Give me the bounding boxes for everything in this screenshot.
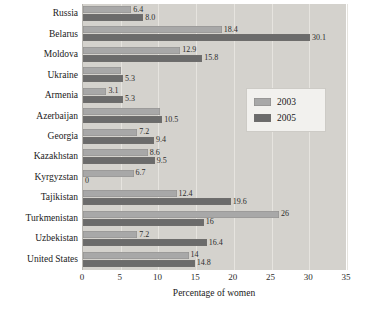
bar-value-label: 16	[206, 218, 214, 226]
bar-2005-belarus	[83, 34, 310, 41]
bar-2003-kyrgyzstan	[83, 170, 134, 177]
bar-2005-kazakhstan	[83, 157, 155, 164]
bar-value-label: 14.8	[197, 259, 211, 267]
bar-value-label: 12.9	[182, 46, 196, 54]
category-axis-labels: RussiaBelarusMoldovaUkraineArmeniaAzerba…	[0, 4, 78, 270]
legend-item-2003: 2003	[254, 94, 325, 110]
bar-value-label: 5.3	[125, 95, 135, 103]
bar-value-label: 6.7	[136, 169, 146, 177]
bar-2005-turkmenistan	[83, 219, 204, 226]
bar-2003-belarus	[83, 26, 222, 33]
bar-2005-azerbaijan	[83, 116, 162, 123]
chart-figure: 6.48.018.430.112.915.85.33.15.310.57.29.…	[0, 0, 366, 320]
x-tick-25: 25	[266, 272, 275, 282]
bar-2003-turkmenistan	[83, 211, 279, 218]
bar-2005-ukraine	[83, 75, 123, 82]
bar-2003-uzbekistan	[83, 231, 137, 238]
bar-row: 2616	[83, 211, 346, 231]
chart-legend: 2003 2005	[246, 88, 326, 132]
legend-swatch-2003-icon	[254, 98, 271, 106]
x-axis-label: Percentage of women	[82, 288, 346, 298]
legend-label-2005: 2005	[277, 113, 296, 123]
bar-value-label: 9.5	[157, 157, 167, 165]
legend-label-2003: 2003	[277, 97, 296, 107]
legend-item-2005: 2005	[254, 110, 325, 126]
category-label-russia: Russia	[0, 8, 78, 18]
category-label-armenia: Armenia	[0, 90, 78, 100]
bar-value-label: 6.4	[133, 6, 143, 14]
plot-area: 6.48.018.430.112.915.85.33.15.310.57.29.…	[82, 4, 346, 270]
bar-rows: 6.48.018.430.112.915.85.33.15.310.57.29.…	[83, 4, 346, 270]
bar-2005-united-states	[83, 260, 195, 267]
bar-row: 12.419.6	[83, 190, 346, 210]
bar-value-label: 18.4	[224, 26, 238, 34]
bar-value-label: 7.2	[139, 128, 149, 136]
category-label-turkmenistan: Turkmenistan	[0, 213, 78, 223]
x-tick-15: 15	[191, 272, 200, 282]
bar-2005-georgia	[83, 137, 154, 144]
bar-value-label: 16.4	[209, 239, 223, 247]
bar-row: 6.70	[83, 170, 346, 190]
bar-2005-russia	[83, 14, 143, 21]
x-tick-0: 0	[80, 272, 85, 282]
bar-2003-tajikistan	[83, 190, 177, 197]
bar-value-label: 5.3	[125, 75, 135, 83]
category-label-belarus: Belarus	[0, 29, 78, 39]
bar-row: 12.915.8	[83, 47, 346, 67]
bar-row: 5.3	[83, 67, 346, 87]
category-label-united-states: United States	[0, 254, 78, 264]
bar-value-label: 26	[281, 210, 289, 218]
bar-2003-azerbaijan	[83, 108, 160, 115]
bar-2003-georgia	[83, 129, 137, 136]
bar-2003-armenia	[83, 88, 106, 95]
category-label-kyrgyzstan: Kyrgyzstan	[0, 172, 78, 182]
gridline-35	[347, 4, 348, 270]
x-tick-20: 20	[228, 272, 237, 282]
category-label-azerbaijan: Azerbaijan	[0, 111, 78, 121]
bar-value-label: 15.8	[204, 54, 218, 62]
bar-2005-armenia	[83, 96, 123, 103]
x-axis-ticks: 05101520253035	[82, 272, 346, 286]
bar-value-label: 9.4	[156, 136, 166, 144]
category-label-tajikistan: Tajikistan	[0, 192, 78, 202]
bar-2003-ukraine	[83, 67, 121, 74]
x-tick-30: 30	[304, 272, 313, 282]
bar-value-label: 10.5	[164, 116, 178, 124]
bar-value-label: 7.2	[139, 231, 149, 239]
bar-2003-united-states	[83, 252, 189, 259]
category-label-kazakhstan: Kazakhstan	[0, 151, 78, 161]
category-label-uzbekistan: Uzbekistan	[0, 233, 78, 243]
bar-value-label: 30.1	[312, 34, 326, 42]
bar-value-label: 8.0	[145, 14, 155, 22]
category-label-ukraine: Ukraine	[0, 70, 78, 80]
x-tick-10: 10	[153, 272, 162, 282]
bar-value-label: 3.1	[108, 87, 118, 95]
bar-2005-moldova	[83, 55, 202, 62]
bar-2003-moldova	[83, 47, 180, 54]
legend-swatch-2005-icon	[254, 114, 271, 122]
x-tick-35: 35	[342, 272, 351, 282]
bar-2003-russia	[83, 6, 131, 13]
bar-value-label: 0	[85, 177, 89, 185]
category-label-moldova: Moldova	[0, 49, 78, 59]
x-tick-5: 5	[117, 272, 122, 282]
bar-2003-kazakhstan	[83, 149, 148, 156]
bar-row: 8.69.5	[83, 149, 346, 169]
category-label-georgia: Georgia	[0, 131, 78, 141]
bar-2005-tajikistan	[83, 198, 231, 205]
bar-value-label: 12.4	[179, 190, 193, 198]
bar-row: 6.48.0	[83, 6, 346, 26]
bar-value-label: 19.6	[233, 198, 247, 206]
bar-2005-uzbekistan	[83, 239, 207, 246]
bar-row: 1414.8	[83, 252, 346, 272]
bar-row: 7.216.4	[83, 231, 346, 251]
bar-row: 18.430.1	[83, 26, 346, 46]
